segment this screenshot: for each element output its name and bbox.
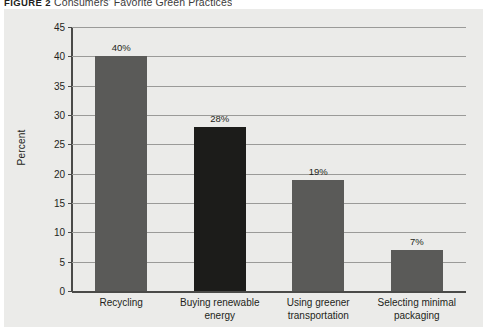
y-axis-tick-label: 35: [54, 80, 65, 91]
y-axis-tick-label: 30: [54, 110, 65, 121]
x-axis-category-label: Recycling: [72, 297, 171, 310]
x-axis-category-label: Buying renewable energy: [171, 297, 270, 322]
bar: 28%: [194, 127, 246, 291]
bar-value-label: 40%: [112, 42, 131, 53]
axis-area: 05101520253035404540%28%19%7%: [72, 27, 466, 291]
y-axis-tick-mark: [68, 174, 72, 175]
y-axis-tick-label: 20: [54, 168, 65, 179]
gridline: [72, 291, 466, 293]
y-axis-line: [71, 27, 73, 291]
figure-title: Consumers' Favorite Green Practices: [54, 0, 232, 8]
y-axis-tick-label: 45: [54, 22, 65, 33]
y-axis-tick-label: 15: [54, 198, 65, 209]
bar: 40%: [95, 56, 147, 291]
y-axis-tick-label: 40: [54, 51, 65, 62]
y-axis-title: Percent: [16, 113, 27, 183]
y-axis-tick-mark: [68, 86, 72, 87]
plot-area: Percent 05101520253035404540%28%19%7% Re…: [4, 9, 483, 327]
y-axis-tick-mark: [68, 115, 72, 116]
y-axis-tick-label: 10: [54, 227, 65, 238]
y-axis-tick-mark: [68, 144, 72, 145]
bar: 7%: [391, 250, 443, 291]
x-axis-category-label: Using greener transportation: [269, 297, 368, 322]
figure-caption: FIGURE 2Consumers' Favorite Green Practi…: [4, 0, 232, 9]
y-axis-tick-label: 25: [54, 139, 65, 150]
y-axis-tick-mark: [68, 203, 72, 204]
y-axis-tick-mark: [68, 232, 72, 233]
bar: 19%: [292, 180, 344, 291]
bar-value-label: 7%: [410, 236, 424, 247]
y-axis-tick-mark: [68, 262, 72, 263]
figure-number-label: FIGURE 2: [4, 0, 51, 8]
y-axis-tick-mark: [68, 27, 72, 28]
bar-value-label: 28%: [210, 113, 229, 124]
y-axis-tick-label: 0: [59, 286, 65, 297]
figure-page: FIGURE 2Consumers' Favorite Green Practi…: [0, 0, 487, 331]
chart-panel: Percent 05101520253035404540%28%19%7% Re…: [4, 9, 483, 327]
y-axis-tick-mark: [68, 56, 72, 57]
gridline: [72, 27, 466, 28]
y-axis-tick-mark: [68, 291, 72, 292]
y-axis-tick-label: 5: [59, 256, 65, 267]
x-axis-category-label: Selecting minimal packaging: [368, 297, 467, 322]
bar-value-label: 19%: [309, 166, 328, 177]
